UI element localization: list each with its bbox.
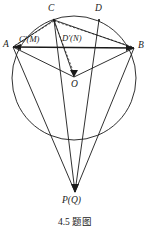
line-C-to-P: [54, 20, 75, 192]
line-D-to-P: [75, 20, 99, 192]
point-label-D: D: [95, 4, 102, 14]
point-label-C: C: [48, 4, 54, 14]
point-label-P-Q: P(Q): [62, 196, 81, 206]
geometry-figure: A B C D O C'(M) D'(N) P(Q) 4.5 题图: [0, 0, 150, 237]
chord-AB: [13, 47, 134, 48]
point-label-D-prime-N: D'(N): [62, 34, 82, 43]
arrowhead-at-P: [71, 184, 79, 193]
point-label-O: O: [71, 80, 78, 90]
segment-OB: [74, 48, 134, 77]
vertex-dot-C: [53, 19, 56, 22]
line-B-to-P: [75, 48, 134, 192]
point-label-A: A: [3, 40, 9, 50]
point-label-C-prime-M: C'(M): [19, 35, 39, 44]
vertex-dot-D: [98, 19, 100, 21]
figure-caption: 4.5 题图: [0, 214, 150, 228]
point-label-B: B: [138, 41, 144, 51]
